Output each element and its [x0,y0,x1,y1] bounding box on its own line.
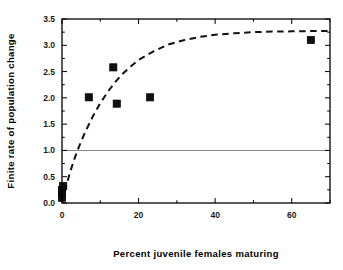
data-point-marker [146,94,153,101]
y-tick-label: 3.0 [43,40,55,50]
x-tick-label: 20 [134,210,144,220]
data-point-marker [110,64,117,71]
y-tick-labels: 0.00.51.01.52.02.53.03.5 [43,14,55,208]
y-tick-label: 1.0 [43,145,55,155]
data-point-marker [307,36,314,43]
y-axis-title: Finite rate of population change [5,33,16,188]
data-point-marker [113,100,120,107]
y-tick-label: 0.0 [43,198,55,208]
data-point-marker [60,183,67,190]
x-tick-label: 60 [287,210,297,220]
y-tick-label: 1.5 [43,119,55,129]
figure-container: 0204060 0.00.51.01.52.02.53.03.5 Percent… [0,0,343,270]
x-tick-label: 0 [60,210,65,220]
scatter-plot: 0204060 0.00.51.01.52.02.53.03.5 Percent… [0,0,343,270]
y-tick-label: 2.5 [43,67,55,77]
y-tick-label: 2.0 [43,93,55,103]
y-tick-label: 3.5 [43,14,55,24]
x-tick-labels: 0204060 [60,210,297,220]
x-tick-label: 40 [210,210,220,220]
x-axis-title: Percent juvenile females maturing [113,248,279,259]
y-tick-label: 0.5 [43,172,55,182]
plot-background [62,19,330,203]
data-point-marker [85,94,92,101]
